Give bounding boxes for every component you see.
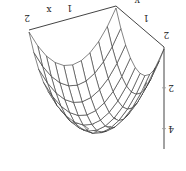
y-tick-label: 2 [164,30,170,40]
x-tick-label: 2 [24,13,30,23]
surface-plot: x y 1 2 1 2 2 4 [0,0,186,171]
z-tick-label: 2 [168,83,174,93]
rotated-plot-group: x y 1 2 1 2 2 4 [24,0,174,149]
y-tick-label: 1 [143,13,149,23]
x-tick-label: 1 [67,3,73,13]
z-tick-label: 4 [168,124,174,134]
surface-mesh [29,8,164,133]
x-axis-label: x [46,5,51,15]
y-axis-label: y [134,0,141,6]
